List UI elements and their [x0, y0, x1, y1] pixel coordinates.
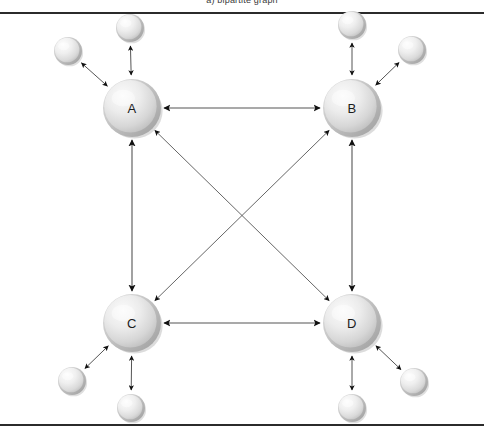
main-node-D[interactable] [323, 294, 383, 354]
satellite-node-a1[interactable] [54, 37, 83, 66]
satellite-node-c2[interactable] [117, 394, 146, 423]
satellite-node-c1[interactable] [58, 367, 87, 396]
edge-layer [132, 108, 352, 323]
figure-container: a) bipartite graph [0, 0, 484, 445]
main-node-B[interactable] [323, 79, 383, 139]
satellite-node-d2[interactable] [400, 368, 429, 397]
satellite-node-a2[interactable] [116, 14, 145, 43]
satellite-node-layer [54, 11, 429, 423]
satellite-edge-A-a1[interactable] [81, 63, 107, 86]
satellite-edge-D-d2[interactable] [376, 346, 401, 370]
satellite-node-b2[interactable] [398, 36, 427, 65]
satellite-edge-B-b2[interactable] [376, 63, 399, 86]
main-node-C[interactable] [103, 294, 163, 354]
satellite-node-d1[interactable] [338, 394, 367, 423]
diagram-canvas [0, 0, 484, 445]
satellite-node-b1[interactable] [338, 11, 367, 40]
main-node-A[interactable] [103, 79, 163, 139]
satellite-edge-C-c1[interactable] [85, 346, 108, 369]
satellite-edge-A-a2[interactable] [130, 46, 131, 75]
